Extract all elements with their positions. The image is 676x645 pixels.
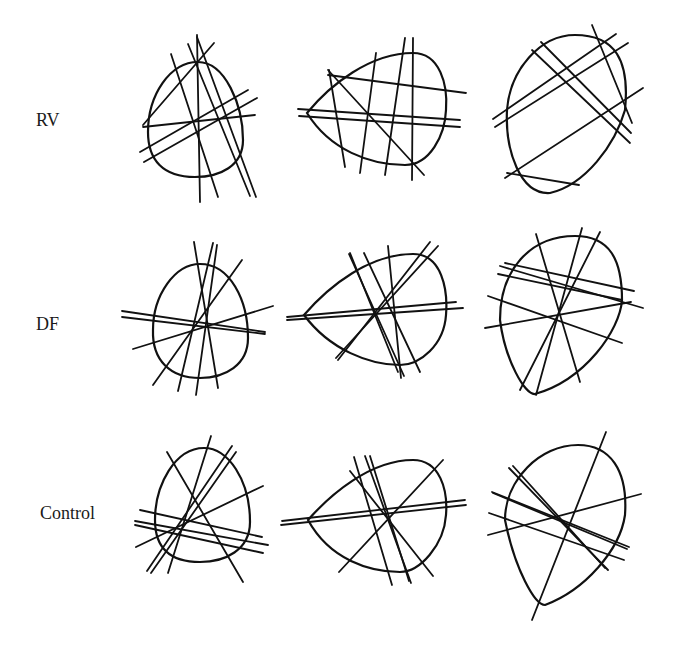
orientation-line [412,38,413,180]
panel-df-3 [485,228,643,395]
panel-control-2 [281,456,466,585]
panel-rv-2 [298,38,466,180]
orientation-line [336,246,438,358]
orientation-line [385,38,405,175]
panel-control-3 [488,432,641,620]
orientation-line [495,43,628,127]
panel-df-1 [122,242,273,395]
panel-rv-3 [493,25,643,193]
orientation-line [151,452,236,573]
orientation-line [498,274,622,300]
orientation-line [140,90,248,152]
orientation-line [493,34,616,119]
panel-rv-1 [140,35,257,202]
orientation-line [507,173,579,185]
orientation-line [147,446,232,571]
orientation-line [282,500,465,521]
orientation-line [122,317,265,334]
orientation-line [168,436,211,573]
cell-outline [507,35,626,193]
orientation-line [488,296,622,343]
orientation-line [197,37,256,197]
panel-df-2 [287,242,463,378]
panel-control-1 [135,436,268,582]
orientation-line [505,88,643,178]
chord-figure-grid [0,0,676,645]
